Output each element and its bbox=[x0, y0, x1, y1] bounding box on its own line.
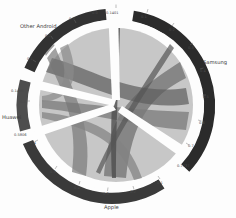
group-label-samsung: Samsung bbox=[203, 59, 227, 66]
chord-diagram-svg: 0.0 0.1 0.2 0.3 0.4 0.5 0.6 0.7 0.1 0.2 … bbox=[0, 0, 236, 218]
tick-label: 0.1 bbox=[157, 181, 163, 185]
group-label-huawei: Huawei bbox=[2, 114, 21, 120]
boundary-value-label: 0.1459 bbox=[11, 89, 24, 93]
tick-label: 0.2 bbox=[45, 34, 51, 38]
tick-label: 0.3 bbox=[103, 192, 109, 196]
tick-label: 0.5 bbox=[50, 170, 56, 174]
tick-label: 0.3 bbox=[188, 46, 194, 50]
group-label-other-android: Other Android bbox=[20, 23, 56, 29]
tick-label: 0.7 bbox=[188, 144, 194, 148]
tick-label: 0.6 bbox=[199, 121, 205, 125]
tick-label: 0.4 bbox=[74, 186, 80, 190]
group-label-apple: Apple bbox=[104, 204, 119, 211]
tick-label: 0.2 bbox=[169, 28, 175, 32]
tick-label: 0.1 bbox=[20, 100, 26, 104]
tick-label: 0.4 bbox=[200, 69, 206, 73]
tick-label: 0.1 bbox=[141, 15, 147, 19]
tick-label: 0.5 bbox=[203, 95, 209, 99]
tick-label: 0.2 bbox=[130, 190, 136, 194]
tick-label: 0.4 bbox=[30, 141, 36, 145]
boundary-value-label: 0.5806 bbox=[14, 133, 27, 137]
boundary-value-label: 0.1401 bbox=[106, 11, 119, 15]
boundary-value-label: 0.7737 bbox=[177, 164, 190, 168]
chord-diagram-container: 0.0 0.1 0.2 0.3 0.4 0.5 0.6 0.7 0.1 0.2 … bbox=[0, 0, 236, 218]
tick-label: 0.3 bbox=[69, 17, 75, 21]
tick-label: 0.0 bbox=[92, 11, 98, 15]
tick-label: 0.1 bbox=[27, 57, 33, 61]
